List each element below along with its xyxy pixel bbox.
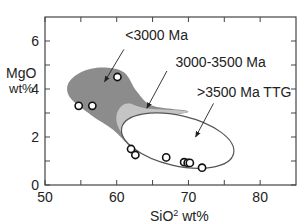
x-tick-label: 80 (252, 189, 268, 205)
x-tick-label: 50 (37, 189, 53, 205)
y-axis-title-line1: MgO (6, 65, 36, 81)
annotation-label: >3500 Ma TTG (197, 84, 291, 100)
annotation-arrow (147, 71, 167, 108)
data-point (114, 73, 121, 80)
y-tick-label: 0 (31, 177, 39, 193)
x-axis-title-unit: wt% (178, 208, 208, 224)
annotation-label: <3000 Ma (125, 27, 188, 43)
data-point (89, 102, 96, 109)
data-point (75, 102, 82, 109)
annotation-label: 3000-3500 Ma (176, 54, 267, 70)
x-tick-label: 70 (181, 189, 197, 205)
y-tick-label: 6 (31, 33, 39, 49)
data-point (198, 164, 205, 171)
x-axis-title-main: SiO (150, 208, 173, 224)
y-axis-title-line2: wt% (8, 81, 34, 96)
x-axis-title: SiO2 wt% (150, 208, 209, 224)
x-tick-label: 60 (109, 189, 125, 205)
y-tick-label: 2 (31, 129, 39, 145)
data-point (163, 154, 170, 161)
data-point (186, 159, 193, 166)
scatter-chart: 506070800246 MgO wt% SiO2 wt% <3000 Ma30… (0, 0, 306, 224)
data-point (132, 151, 139, 158)
